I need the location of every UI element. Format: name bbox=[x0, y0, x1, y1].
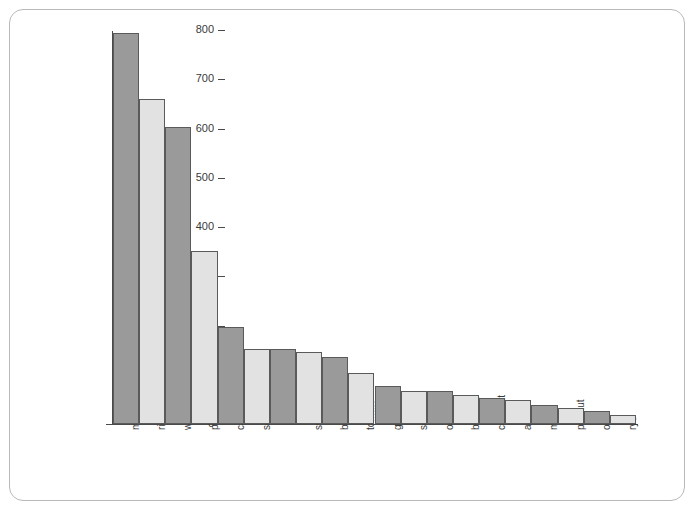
bar bbox=[531, 405, 557, 424]
bar bbox=[191, 251, 217, 424]
bar bbox=[427, 391, 453, 424]
bar bbox=[610, 415, 636, 424]
bar bbox=[218, 327, 244, 424]
bar bbox=[113, 33, 139, 424]
y-axis-tick-label: 700 bbox=[196, 71, 214, 86]
y-axis-tick-mark bbox=[218, 129, 225, 130]
y-axis-tick-label: 500 bbox=[196, 170, 214, 185]
y-axis-tick-label: 600 bbox=[196, 121, 214, 136]
bar bbox=[165, 127, 191, 424]
bar bbox=[139, 99, 165, 424]
y-axis-tick-mark bbox=[218, 276, 225, 277]
y-axis-tick-mark bbox=[218, 79, 225, 80]
y-axis-tick-mark bbox=[218, 227, 225, 228]
bar bbox=[453, 395, 479, 424]
y-axis-tick: 800 bbox=[113, 30, 225, 31]
bar bbox=[375, 386, 401, 424]
figure-root: worldwide production (metric tons × 10⁶)… bbox=[0, 0, 698, 517]
bar bbox=[270, 349, 296, 424]
bar bbox=[296, 352, 322, 424]
bar bbox=[401, 391, 427, 424]
y-axis-tick-mark bbox=[218, 30, 225, 31]
bar bbox=[584, 411, 610, 424]
y-axis-tick-label: 800 bbox=[196, 22, 214, 37]
bar bbox=[505, 400, 531, 424]
y-axis-tick-mark bbox=[218, 326, 225, 327]
y-axis-tick-label: 400 bbox=[196, 219, 214, 234]
bar bbox=[479, 398, 505, 424]
y-axis-tick-mark bbox=[218, 178, 225, 179]
bar bbox=[348, 373, 374, 424]
plot-area: worldwide production (metric tons × 10⁶)… bbox=[113, 30, 636, 424]
bar bbox=[558, 408, 584, 424]
bar bbox=[244, 349, 270, 424]
bar bbox=[322, 357, 348, 424]
